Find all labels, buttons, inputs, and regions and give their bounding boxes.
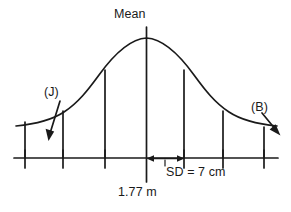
standard-deviation-label: SD = 7 cm (166, 166, 226, 179)
sd-arrowhead-left (147, 155, 155, 161)
right-tail-annotation-label: (B) (251, 101, 268, 114)
mean-label: Mean (114, 8, 146, 21)
normal-distribution-figure: Mean (J) (B) SD = 7 cm 1.77 m (0, 0, 291, 212)
mean-value-label: 1.77 m (118, 186, 157, 199)
left-tail-annotation-label: (J) (44, 86, 59, 99)
j-annotation-arrow-head (46, 129, 55, 141)
figure-canvas (0, 0, 291, 212)
